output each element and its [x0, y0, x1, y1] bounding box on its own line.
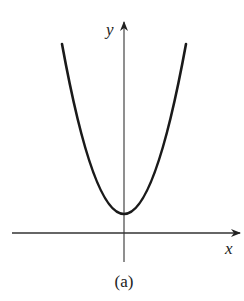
figure-caption: (a) [115, 272, 134, 291]
parabola-figure: y x (a) [0, 0, 244, 301]
y-axis-label: y [104, 20, 114, 39]
x-axis-label: x [224, 239, 233, 258]
